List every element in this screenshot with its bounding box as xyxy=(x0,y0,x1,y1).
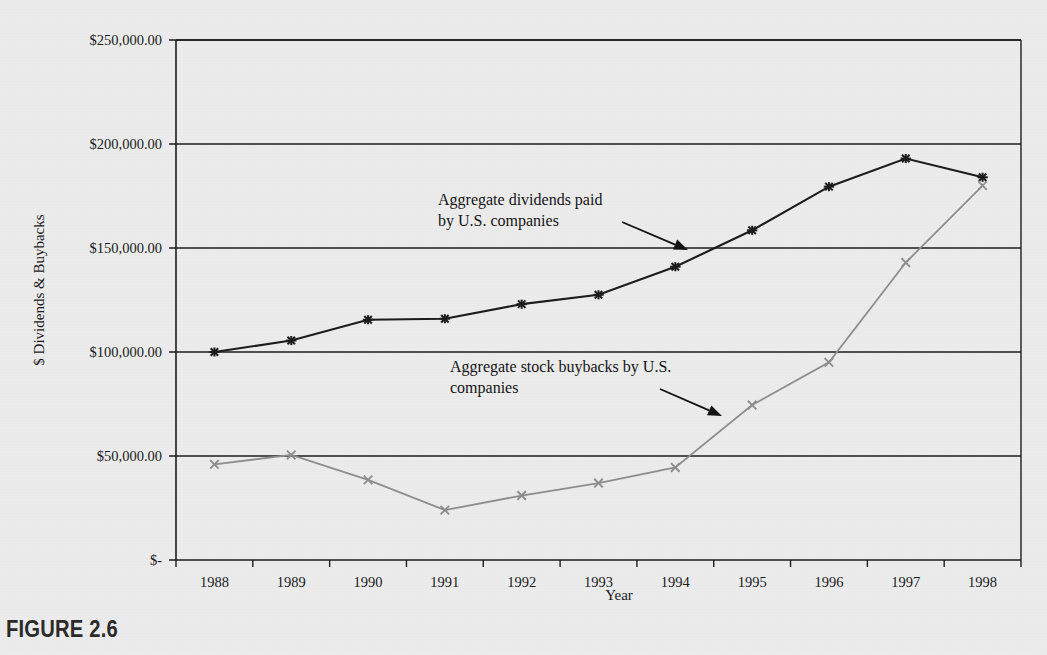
annotation-line-1: Aggregate stock buybacks by U.S. xyxy=(450,358,671,376)
x-tick-label: 1994 xyxy=(661,574,691,590)
y-axis-title: $ Dividends & Buybacks xyxy=(31,214,47,365)
data-point xyxy=(978,181,987,190)
buybacks-annotation: Aggregate stock buybacks by U.S.companie… xyxy=(450,358,722,416)
data-point xyxy=(825,358,834,367)
x-tick-label: 1992 xyxy=(507,574,536,590)
data-point xyxy=(902,258,911,267)
x-axis-tick-labels: 1988198919901991199219931994199519961997… xyxy=(200,574,997,590)
figure-caption: FIGURE 2.6 xyxy=(6,616,118,643)
line-chart: $-$50,000.00$100,000.00$150,000.00$200,0… xyxy=(0,0,1047,655)
annotation-arrow-shaft xyxy=(622,222,675,245)
data-point xyxy=(363,315,373,324)
x-tick-label: 1989 xyxy=(277,574,306,590)
y-tick-label: $100,000.00 xyxy=(90,344,163,360)
x-axis-title: Year xyxy=(605,587,633,603)
data-point xyxy=(516,300,526,309)
annotation-line-2: by U.S. companies xyxy=(438,212,559,230)
annotation-line-1: Aggregate dividends paid xyxy=(438,191,602,209)
series-line xyxy=(214,186,982,510)
figure-2-6: $-$50,000.00$100,000.00$150,000.00$200,0… xyxy=(0,0,1047,655)
y-axis-tick-labels: $-$50,000.00$100,000.00$150,000.00$200,0… xyxy=(90,32,163,568)
y-tick-label: $150,000.00 xyxy=(90,240,163,256)
data-point xyxy=(440,314,450,323)
x-tick-label: 1988 xyxy=(200,574,229,590)
data-point xyxy=(286,336,296,345)
x-tick-label: 1995 xyxy=(738,574,767,590)
dividends-annotation: Aggregate dividends paidby U.S. companie… xyxy=(438,191,688,250)
y-tick-marks xyxy=(169,40,176,560)
y-tick-label: $- xyxy=(150,552,162,568)
y-tick-label: $200,000.00 xyxy=(90,136,163,152)
data-point xyxy=(747,226,757,235)
data-point xyxy=(364,476,373,485)
x-tick-label: 1998 xyxy=(968,574,997,590)
x-tick-label: 1991 xyxy=(430,574,459,590)
series-line xyxy=(214,159,982,352)
data-point xyxy=(824,182,834,191)
data-point xyxy=(977,173,987,182)
data-point xyxy=(901,154,911,163)
annotation-arrow-shaft xyxy=(660,389,709,410)
data-point xyxy=(670,262,680,271)
annotation-arrow-head xyxy=(673,240,688,250)
data-point xyxy=(748,401,757,410)
y-tick-label: $250,000.00 xyxy=(90,32,163,48)
chart-annotations: Aggregate dividends paidby U.S. companie… xyxy=(438,191,722,416)
x-tick-label: 1996 xyxy=(814,574,843,590)
annotation-arrow-head xyxy=(707,405,722,416)
x-tick-label: 1997 xyxy=(891,574,920,590)
y-tick-label: $50,000.00 xyxy=(97,448,162,464)
annotation-line-2: companies xyxy=(450,379,518,397)
data-series xyxy=(214,159,982,511)
x-tick-label: 1990 xyxy=(354,574,383,590)
data-point xyxy=(209,347,219,356)
x-tick-marks xyxy=(176,560,1021,567)
data-point xyxy=(593,290,603,299)
data-point-markers xyxy=(209,154,988,514)
